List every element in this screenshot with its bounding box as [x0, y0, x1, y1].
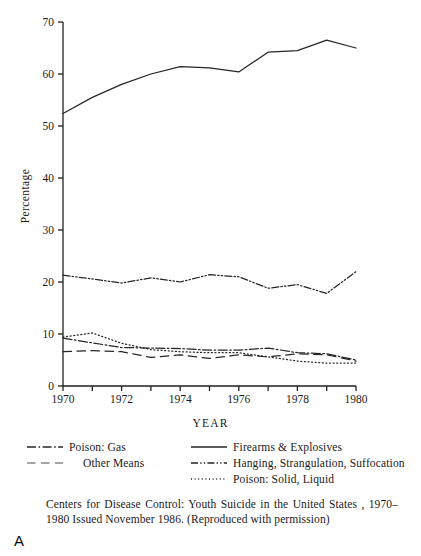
x-axis-tick-label: 1970	[52, 393, 75, 405]
panel-letter: A	[14, 532, 24, 549]
y-axis-tick-label: 60	[43, 68, 55, 80]
legend-item[interactable]: Poison: Gas	[26, 439, 196, 455]
legend-line-swatch	[190, 457, 228, 469]
legend-line-swatch	[26, 457, 64, 469]
x-axis-tick-label: 1978	[286, 393, 309, 405]
figure-panel: 010203040506070 197019721974197619781980…	[0, 0, 421, 556]
series-line	[63, 338, 356, 360]
series-line	[63, 351, 356, 361]
legend-line-swatch	[190, 473, 228, 485]
legend-column-right: Firearms & ExplosivesHanging, Strangulat…	[190, 439, 420, 487]
x-axis: 197019721974197619781980	[52, 386, 368, 405]
y-axis-tick-label: 0	[48, 380, 54, 392]
legend-item-label: Poison: Gas	[69, 441, 126, 453]
y-axis-tick-label: 30	[43, 224, 55, 236]
series-line	[63, 40, 356, 113]
legend-item[interactable]: Poison: Solid, Liquid	[190, 471, 420, 487]
y-axis-tick-label: 20	[43, 276, 55, 288]
y-axis: 010203040506070	[43, 16, 64, 392]
y-axis-tick-label: 50	[43, 120, 55, 132]
x-axis-tick-label: 1980	[345, 393, 368, 405]
data-series-group	[63, 40, 356, 363]
figure-caption: Centers for Disease Control: Youth Suici…	[46, 497, 398, 526]
chart-plot-area: 010203040506070 197019721974197619781980…	[0, 0, 421, 412]
y-axis-tick-label: 70	[43, 16, 55, 28]
series-line	[63, 272, 356, 294]
legend-swatch	[26, 457, 64, 469]
legend-line-swatch	[190, 441, 228, 453]
y-axis-title-text: Percentage	[19, 169, 32, 223]
x-axis-tick-label: 1976	[227, 393, 250, 405]
y-axis-tick-label: 10	[43, 328, 55, 340]
legend-item-label: Hanging, Strangulation, Suffocation	[233, 457, 405, 469]
legend-column-left: Poison: GasOther Means	[26, 439, 196, 471]
legend-swatch	[26, 441, 64, 453]
legend-item-label: Poison: Solid, Liquid	[233, 473, 334, 485]
line-chart-svg: 010203040506070 197019721974197619781980…	[0, 0, 421, 412]
x-axis-title: YEAR	[0, 417, 421, 429]
legend-swatch	[190, 457, 228, 469]
y-axis-title: Percentage	[19, 169, 32, 223]
legend-item-label: Firearms & Explosives	[233, 441, 342, 453]
legend-item-label: Other Means	[69, 457, 144, 469]
chart-legend: Poison: GasOther Means Firearms & Explos…	[0, 437, 421, 489]
legend-swatch	[190, 473, 228, 485]
x-axis-tick-label: 1974	[169, 393, 192, 405]
legend-item[interactable]: Firearms & Explosives	[190, 439, 420, 455]
legend-swatch	[190, 441, 228, 453]
y-axis-tick-label: 40	[43, 172, 55, 184]
x-axis-tick-label: 1972	[110, 393, 133, 405]
legend-item[interactable]: Other Means	[26, 455, 196, 471]
legend-line-swatch	[26, 441, 64, 453]
legend-item[interactable]: Hanging, Strangulation, Suffocation	[190, 455, 420, 471]
